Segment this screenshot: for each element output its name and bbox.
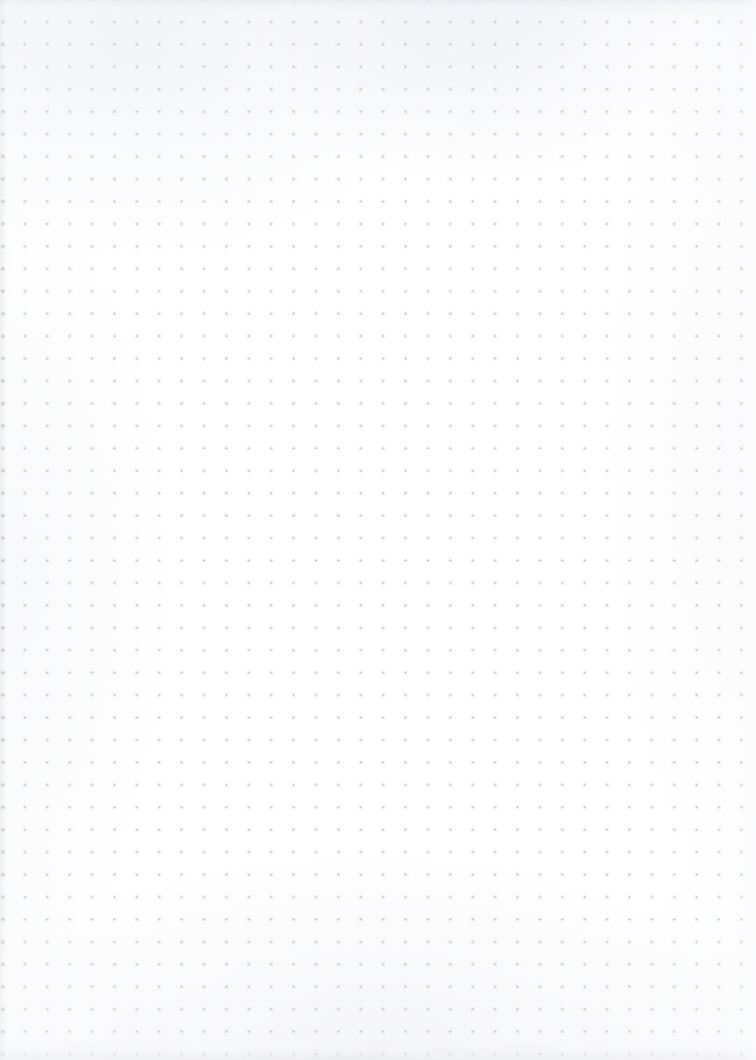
dot-grid-page (0, 0, 756, 1060)
paper-background (0, 0, 756, 1060)
